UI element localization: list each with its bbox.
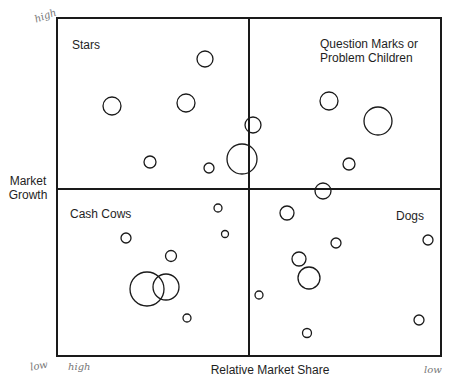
business-unit-circle-dogs — [255, 291, 263, 299]
business-unit-circle-question-marks — [245, 117, 261, 133]
business-unit-circle-cash-cows — [130, 272, 164, 306]
quadrant-label-dogs: Dogs — [396, 209, 424, 223]
business-unit-circle-stars — [227, 144, 257, 174]
business-unit-circle-stars — [197, 51, 213, 67]
business-unit-circle-stars — [144, 156, 156, 168]
business-unit-circle-stars — [204, 163, 214, 173]
business-unit-circle-dogs — [298, 267, 320, 289]
handwritten-low-share: low — [424, 364, 442, 375]
y-axis-label: Market Growth — [2, 174, 54, 202]
quadrant-label-cash-cows: Cash Cows — [70, 207, 131, 221]
y-axis-label-line2: Growth — [2, 188, 54, 202]
business-unit-circle-question-marks — [320, 92, 338, 110]
quadrant-label-line2: Problem Children — [320, 51, 418, 65]
quadrant-label-question-marks: Question Marks or Problem Children — [320, 37, 418, 65]
business-unit-circle-cash-cows — [222, 231, 229, 238]
business-unit-circle-stars — [103, 97, 121, 115]
y-axis-label-line1: Market — [2, 174, 54, 188]
quadrant-label-line1: Question Marks or — [320, 37, 418, 51]
business-unit-circle-dogs — [303, 329, 312, 338]
business-unit-circle-dogs — [414, 315, 424, 325]
business-unit-circle-dogs — [423, 235, 433, 245]
business-unit-circle-dogs — [292, 252, 306, 266]
x-axis-label: Relative Market Share — [170, 363, 370, 377]
business-unit-circle-question-marks — [364, 107, 392, 135]
business-unit-circle-question-marks — [343, 158, 355, 170]
business-unit-circle-cash-cows — [183, 314, 191, 322]
business-unit-circle-dogs — [331, 238, 341, 248]
business-unit-circle-cash-cows — [166, 251, 177, 262]
business-unit-circle-cash-cows — [214, 204, 222, 212]
handwritten-high-share: high — [68, 361, 90, 372]
business-unit-circle-stars — [177, 94, 195, 112]
business-unit-circle-dogs — [280, 206, 294, 220]
business-unit-circle-cash-cows — [121, 233, 131, 243]
business-unit-circle-question-marks — [315, 183, 331, 199]
business-unit-circles — [103, 51, 433, 338]
quadrant-label-stars: Stars — [72, 38, 100, 52]
business-unit-circle-cash-cows — [153, 274, 179, 300]
